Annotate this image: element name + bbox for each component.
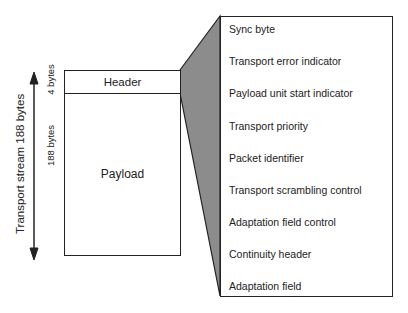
payload-label: Payload	[101, 167, 144, 181]
header-size-label: 4 bytes	[45, 60, 56, 100]
header-fields-box: Sync byte Transport error indicator Payl…	[220, 16, 393, 297]
field-adaptation-field-control: Adaptation field control	[229, 216, 336, 228]
payload-size-label: 188 bytes	[45, 121, 56, 171]
header-expansion-wedge	[180, 16, 220, 296]
header-label: Header	[104, 76, 142, 88]
field-transport-error-indicator: Transport error indicator	[229, 55, 341, 67]
field-packet-identifier: Packet identifier	[229, 152, 304, 164]
header-box: Header	[64, 70, 181, 94]
field-continuity-header: Continuity header	[229, 248, 311, 260]
field-sync-byte: Sync byte	[229, 23, 275, 35]
double-arrow-icon	[30, 72, 38, 260]
field-transport-priority: Transport priority	[229, 120, 308, 132]
stream-size-label: Transport stream 188 bytes	[14, 94, 26, 234]
payload-box: Payload	[64, 93, 181, 256]
field-transport-scrambling-control: Transport scrambling control	[229, 184, 362, 196]
field-payload-unit-start-indicator: Payload unit start indicator	[229, 87, 353, 99]
field-adaptation-field: Adaptation field	[229, 280, 301, 292]
